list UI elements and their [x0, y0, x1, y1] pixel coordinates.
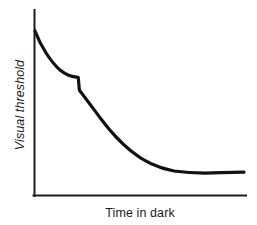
- y-axis-label: Visual threshold: [13, 59, 27, 150]
- chart-canvas: Time in dark Visual threshold: [0, 0, 257, 225]
- x-axis-label: Time in dark: [105, 206, 175, 220]
- dark-adaptation-chart: Time in dark Visual threshold: [0, 0, 257, 225]
- chart-background: [0, 0, 257, 225]
